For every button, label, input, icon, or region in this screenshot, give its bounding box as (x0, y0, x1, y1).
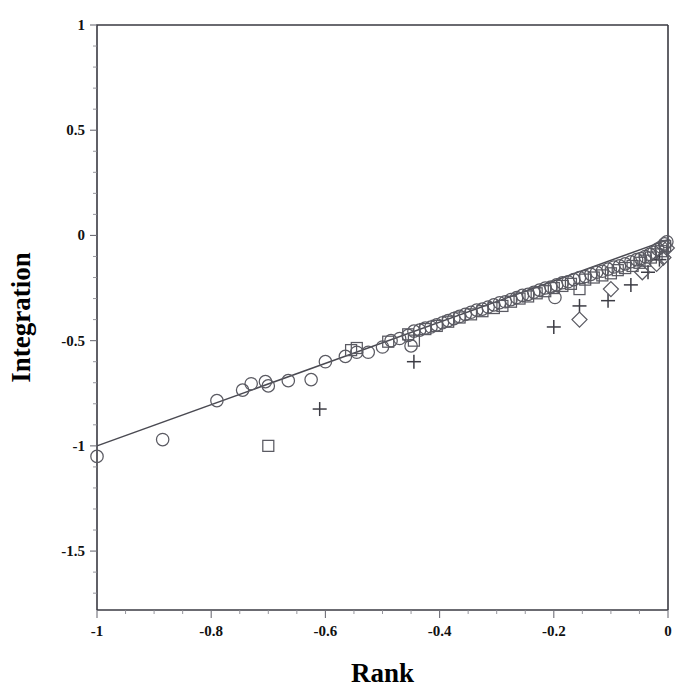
y-tick-label: -1.5 (61, 543, 85, 559)
y-axis-title: Integration (6, 252, 36, 383)
data-point-plus (572, 299, 586, 313)
data-point-diamond (603, 282, 618, 297)
data-point-circle (259, 375, 271, 387)
data-point-circle (305, 373, 317, 385)
scatter-chart: 10.50-0.5-1-1.5-1-0.8-0.6-0.4-0.20RankIn… (0, 0, 694, 693)
x-tick-label: -1 (91, 623, 104, 639)
data-point-square (263, 440, 274, 451)
data-point-plus (313, 402, 327, 416)
series-plus (313, 253, 667, 416)
x-axis-title: Rank (351, 658, 414, 688)
y-tick-label: 0.5 (66, 122, 85, 138)
y-tick-label: -0.5 (61, 333, 85, 349)
x-tick-label: -0.6 (314, 623, 338, 639)
data-point-plus (624, 278, 638, 292)
chart-root: 10.50-0.5-1-1.5-1-0.8-0.6-0.4-0.20RankIn… (0, 0, 694, 693)
data-point-plus (407, 355, 421, 369)
y-tick-label: 0 (78, 227, 86, 243)
data-point-plus (601, 294, 615, 308)
data-points-group (91, 236, 675, 463)
data-point-diamond (572, 312, 587, 327)
data-point-circle (236, 384, 248, 396)
plot-frame (97, 25, 668, 610)
y-tick-label: 1 (78, 17, 86, 33)
data-point-circle (156, 433, 168, 445)
data-point-circle (245, 378, 257, 390)
x-tick-label: -0.4 (428, 623, 452, 639)
x-tick-label: -0.8 (199, 623, 223, 639)
x-tick-label: -0.2 (542, 623, 566, 639)
x-tick-label: 0 (664, 623, 672, 639)
y-tick-label: -1 (73, 438, 86, 454)
data-point-plus (547, 320, 561, 334)
